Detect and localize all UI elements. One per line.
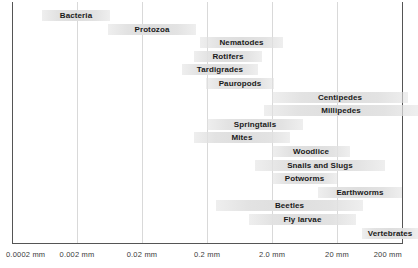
plot-area: BacteriaProtozoaNematodesRotifersTardigr… [12, 2, 402, 244]
bar-woodlice: Woodlice [272, 146, 350, 157]
x-axis-line [12, 243, 402, 244]
bar-label: Tardigrades [197, 64, 243, 75]
bar-label: Bacteria [60, 10, 92, 21]
bar-label: Centipedes [318, 92, 362, 103]
bar-label: Nematodes [219, 37, 263, 48]
bar-springtails: Springtails [207, 119, 303, 130]
bar-beetles: Beetles [216, 200, 363, 211]
bar-label: Snails and Slugs [287, 160, 353, 171]
bar-snails-and-slugs: Snails and Slugs [255, 160, 385, 171]
bar-earthworms: Earthworms [318, 187, 402, 198]
gridline-6 [402, 2, 403, 244]
bar-label: Pauropods [219, 78, 262, 89]
bar-potworms: Potworms [272, 173, 337, 184]
bar-pauropods: Pauropods [206, 78, 274, 89]
x-tick-label-5: 20 mm [325, 250, 349, 259]
bar-protozoa: Protozoa [108, 24, 196, 35]
bar-label: Woodlice [293, 146, 329, 157]
bar-label: Fly larvae [284, 214, 322, 225]
soil-organism-size-chart: BacteriaProtozoaNematodesRotifersTardigr… [0, 0, 418, 268]
bar-vertebrates: Vertebrates [362, 228, 418, 239]
bar-rotifers: Rotifers [194, 51, 262, 62]
bar-label: Rotifers [212, 51, 243, 62]
x-tick-label-2: 0.02 mm [127, 250, 158, 259]
bar-label: Vertebrates [368, 228, 413, 239]
bar-label: Millipedes [321, 105, 361, 116]
bar-millipedes: Millipedes [264, 105, 418, 116]
bar-label: Mites [232, 132, 253, 143]
bar-mites: Mites [194, 132, 290, 143]
bar-fly-larvae: Fly larvae [249, 214, 356, 225]
x-tick-label-4: 2.0 mm [259, 250, 285, 259]
bar-label: Protozoa [134, 24, 169, 35]
gridline-1 [77, 2, 78, 244]
x-tick-label-0: 0.0002 mm [6, 250, 45, 259]
bar-centipedes: Centipedes [272, 92, 408, 103]
x-tick-label-3: 0.2 mm [194, 250, 220, 259]
gridline-2 [142, 2, 143, 244]
x-tick-label-6: 200 mm [374, 250, 402, 259]
bar-label: Springtails [234, 119, 276, 130]
x-tick-label-1: 0.002 mm [60, 250, 95, 259]
gridline-0 [12, 2, 13, 244]
bar-tardigrades: Tardigrades [182, 64, 258, 75]
bar-label: Potworms [285, 173, 324, 184]
bar-label: Beetles [275, 200, 304, 211]
bar-bacteria: Bacteria [42, 10, 110, 21]
bar-label: Earthworms [336, 187, 383, 198]
x-axis-tick-labels: 0.0002 mm0.002 mm0.02 mm0.2 mm2.0 mm20 m… [0, 250, 418, 266]
bar-nematodes: Nematodes [200, 37, 283, 48]
